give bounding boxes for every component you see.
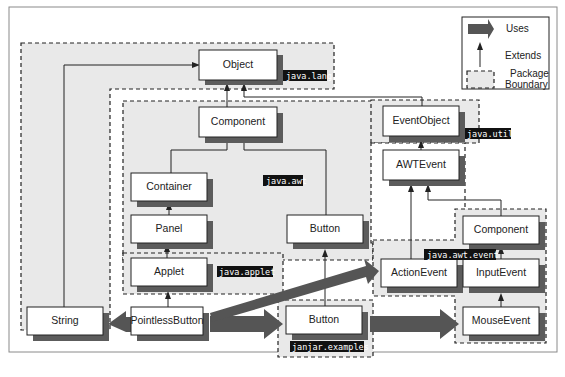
class-pointlessbutton-label: PointlessButton: [131, 314, 204, 326]
class-component-label: Component: [211, 115, 265, 127]
class-diagram: Object Component EventObject AWTEvent Co…: [0, 0, 565, 377]
class-mouseevent-label: MouseEvent: [472, 314, 530, 326]
package-legend-icon: [467, 71, 494, 88]
class-eventobject-label: EventObject: [392, 114, 449, 126]
legend-package-label-2: Boundary: [505, 79, 548, 90]
class-component-event-label: Component: [474, 223, 528, 235]
legend-package-label-1: Package: [510, 68, 549, 79]
class-awtevent-label: AWTEvent: [396, 158, 446, 170]
class-applet-label: Applet: [154, 265, 184, 277]
legend: Uses Extends Package Boundary: [462, 17, 549, 90]
class-actionevent-label: ActionEvent: [391, 266, 447, 278]
package-tag-janjar-examples: janjar.examples: [292, 342, 369, 352]
legend-extends-label: Extends: [505, 50, 541, 61]
class-panel-label: Panel: [156, 222, 183, 234]
package-tag-java-lang: java.lang: [286, 71, 332, 81]
class-object-label: Object: [223, 58, 253, 70]
legend-uses-label: Uses: [506, 23, 529, 34]
class-awt-button-label: Button: [310, 222, 341, 234]
class-container-label: Container: [146, 180, 192, 192]
package-tag-java-awt-event: java.awt.event: [427, 250, 499, 260]
class-examples-button-label: Button: [309, 313, 340, 325]
class-string-label: String: [51, 314, 79, 326]
package-tag-java-awt: java.awt: [266, 176, 307, 186]
package-tag-java-applet: java.applet: [219, 267, 275, 277]
package-tag-java-util: java.util: [467, 129, 513, 139]
class-inputevent-label: InputEvent: [476, 266, 526, 278]
